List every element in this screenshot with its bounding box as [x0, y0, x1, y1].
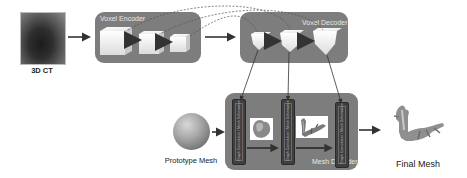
decoder-cube-1-icon	[251, 32, 271, 50]
heart-mesh-refined-icon	[301, 118, 326, 137]
decoder-cube-2-icon	[280, 30, 304, 52]
decoder-cube-3-icon	[313, 28, 342, 55]
encoder-cube-1-icon	[100, 27, 132, 55]
encoder-cube-3-icon	[170, 34, 190, 52]
final-mesh-icon	[394, 105, 444, 141]
diagram-graphics	[0, 0, 467, 178]
encoder-cube-2-icon	[139, 31, 164, 54]
heart-mesh-coarse-icon	[253, 120, 270, 138]
